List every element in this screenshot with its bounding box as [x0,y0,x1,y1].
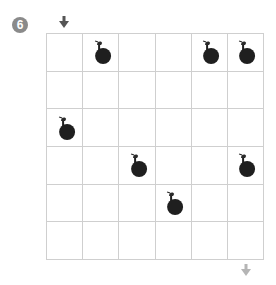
bomb-icon [163,190,185,216]
grid-cell[interactable] [47,222,83,260]
grid-cell[interactable] [228,72,264,110]
bomb-icon [236,39,258,65]
exit-arrow-icon [241,264,251,276]
grid-cell[interactable] [83,222,119,260]
grid-cell[interactable] [156,222,192,260]
grid-cell[interactable] [192,109,228,147]
grid-cell[interactable] [192,185,228,223]
grid-cell[interactable] [83,147,119,185]
bomb-icon [236,152,258,178]
bomb-icon [55,115,77,141]
grid-cell[interactable] [156,147,192,185]
grid-cell[interactable] [228,34,264,72]
grid-cell[interactable] [83,109,119,147]
grid-cell[interactable] [192,222,228,260]
grid-cell[interactable] [119,34,155,72]
grid-cell[interactable] [192,34,228,72]
puzzle-number-badge: 6 [12,17,28,33]
puzzle-grid [46,33,264,260]
bomb-icon [199,39,221,65]
grid-cell[interactable] [83,72,119,110]
bomb-icon [91,39,113,65]
grid-cell[interactable] [228,109,264,147]
grid-cell[interactable] [119,147,155,185]
grid-cell[interactable] [83,185,119,223]
grid-cell[interactable] [228,147,264,185]
grid-cell[interactable] [156,109,192,147]
grid-cell[interactable] [83,34,119,72]
grid-cell[interactable] [156,185,192,223]
grid-cell[interactable] [47,109,83,147]
grid-cell[interactable] [192,72,228,110]
grid-cell[interactable] [228,222,264,260]
grid-cell[interactable] [119,109,155,147]
grid-cell[interactable] [228,185,264,223]
grid-cell[interactable] [119,72,155,110]
grid-cell[interactable] [192,147,228,185]
grid-cell[interactable] [119,222,155,260]
grid-cell[interactable] [47,147,83,185]
grid-cell[interactable] [47,34,83,72]
grid-cell[interactable] [119,185,155,223]
grid-cell[interactable] [156,34,192,72]
entry-arrow-icon [59,16,69,28]
bomb-icon [127,152,149,178]
grid-cell[interactable] [47,72,83,110]
grid-cell[interactable] [156,72,192,110]
grid-cell[interactable] [47,185,83,223]
